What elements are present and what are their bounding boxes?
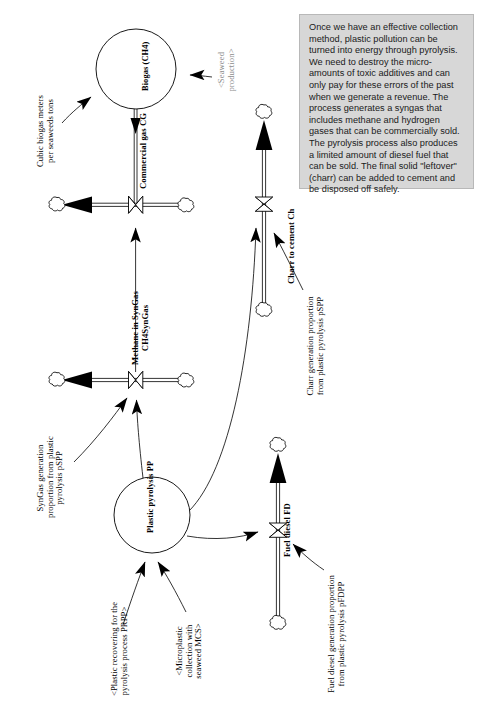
variable-label-fuel-diesel-proportion: Fuel diesel generation proportion from p…: [327, 572, 346, 696]
link-microplastic-collection-to-pyrolysis: [158, 562, 186, 612]
flow-charr-to-cement: [255, 104, 272, 316]
flow-label-methane-syngas: Methane in SynGas CH4SynGas: [131, 289, 150, 367]
flow-label-charr-to-cement: Charr to cement Ch: [287, 209, 297, 284]
flow-label-commercial-gas: Commercial gas CG: [139, 113, 149, 189]
link-syngas-proportion-to-valve: [74, 398, 127, 462]
link-pyrolysis-to-syngas-valve: [137, 400, 144, 478]
stock-biogas: [96, 29, 176, 109]
link-pyrolysis-to-diesel-valve: [187, 532, 258, 539]
variable-label-cubic-biogas-meters: Cubic biogas meters per seaweeds tons: [36, 92, 55, 170]
flow-label-fuel-diesel: Fuel diesel FD: [283, 503, 293, 557]
variable-label-syngas-proportion: SynGas generation proportion from plasti…: [36, 438, 65, 518]
flow-pipe-upper: [49, 196, 194, 213]
link-pyrolysis-to-charr-valve: [189, 228, 256, 511]
stock-label-plastic-pyrolysis: Plastic pyrolysis PP: [146, 473, 156, 533]
flow-pipe-lower: [49, 371, 194, 388]
variable-label-seaweed-production: <Seaweed production>: [217, 40, 236, 100]
link-seaweed-production-to-biogas: [190, 75, 212, 77]
diagram-canvas: Once we have an effective collection met…: [0, 0, 485, 704]
explanatory-note: Once we have an effective collection met…: [299, 14, 474, 189]
variable-label-microplastic-collection: <Microplastic collection with seaweed MC…: [175, 614, 204, 688]
variable-label-plastic-recovering: <Plastic recovering for the pyrolysis pr…: [110, 606, 129, 696]
link-cubic-biogas-to-biogas: [62, 97, 91, 123]
stock-label-biogas: Biogas (CH4): [141, 42, 151, 91]
link-diesel-proportion-to-valve: [293, 544, 324, 570]
variable-label-charr-proportion: Charr generation proportion from plastic…: [306, 292, 325, 400]
